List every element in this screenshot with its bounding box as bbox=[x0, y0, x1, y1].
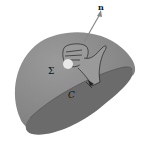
diagram-stage: n Σ C bbox=[0, 0, 149, 143]
surface-diagram: n Σ C bbox=[0, 0, 149, 143]
label-sigma: Σ bbox=[48, 66, 54, 76]
label-n: n bbox=[98, 2, 104, 12]
label-c: C bbox=[68, 90, 75, 100]
thumb-highlight bbox=[63, 59, 73, 69]
